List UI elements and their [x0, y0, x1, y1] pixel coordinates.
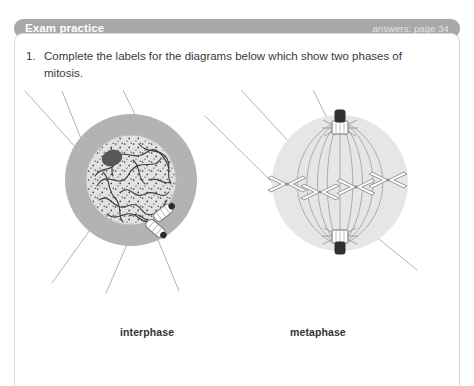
caption-metaphase: metaphase	[290, 326, 346, 338]
question-block: 1. Complete the labels for the diagrams …	[26, 48, 446, 82]
interphase-diagram	[25, 90, 197, 293]
mitosis-diagrams-svg	[15, 88, 459, 343]
question-text: Complete the labels for the diagrams bel…	[44, 48, 442, 82]
diagrams-area	[15, 88, 459, 343]
answers-reference: answers: page 34	[372, 24, 449, 34]
page-root: Exam practice answers: page 34 1. Comple…	[0, 0, 474, 386]
metaphase-diagram	[205, 90, 417, 270]
caption-interphase: interphase	[120, 326, 174, 338]
question-number: 1.	[26, 48, 44, 65]
